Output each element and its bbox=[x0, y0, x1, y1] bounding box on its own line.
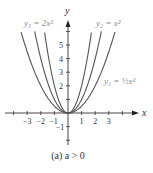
chart-caption: (a) a > 0 bbox=[0, 150, 136, 161]
x-tick-label: 2 bbox=[93, 117, 97, 126]
y-neg-tick-label: −1 bbox=[56, 123, 65, 132]
x-tick-label: −2 bbox=[37, 117, 46, 126]
y-tick-label: 5 bbox=[59, 41, 63, 50]
x-tick-label: 1 bbox=[80, 117, 84, 126]
curve-label-y2: y₂ = x² bbox=[95, 18, 121, 28]
curve-label-y1: y₁ = ½x² bbox=[103, 76, 135, 86]
y-axis-label: y bbox=[64, 5, 70, 16]
x-axis-label: x bbox=[141, 107, 147, 118]
parabola-chart: x y −3 −2 −1 1 2 3 2 3 4 5 −1 y₃ = 2x² y… bbox=[0, 0, 153, 173]
y-tick-label: 4 bbox=[59, 55, 63, 64]
x-tick-label: 3 bbox=[107, 117, 111, 126]
y-tick-label: 3 bbox=[59, 68, 63, 77]
curve-label-y3: y₃ = 2x² bbox=[23, 18, 53, 28]
x-tick-label: −3 bbox=[23, 117, 32, 126]
y-axis-arrow-icon bbox=[66, 20, 71, 27]
x-axis-arrow-icon bbox=[132, 111, 139, 116]
y-tick-label: 2 bbox=[59, 82, 63, 91]
